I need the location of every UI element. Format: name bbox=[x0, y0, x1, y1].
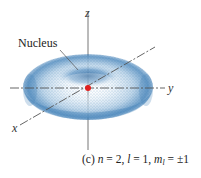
caption-m-value: = ±1 bbox=[165, 153, 189, 165]
x-axis-label: x bbox=[12, 122, 17, 134]
figure-caption: (c) n = 2, l = 1, ml = ±1 bbox=[82, 154, 189, 167]
nucleus-dot bbox=[85, 85, 91, 91]
caption-l-value: = 1, bbox=[130, 153, 154, 165]
caption-n-value: = 2, bbox=[103, 153, 127, 165]
y-axis-label: y bbox=[168, 82, 173, 94]
caption-panel: (c) bbox=[82, 153, 95, 165]
nucleus-label: Nucleus bbox=[18, 37, 57, 49]
z-axis-label: z bbox=[85, 7, 90, 19]
